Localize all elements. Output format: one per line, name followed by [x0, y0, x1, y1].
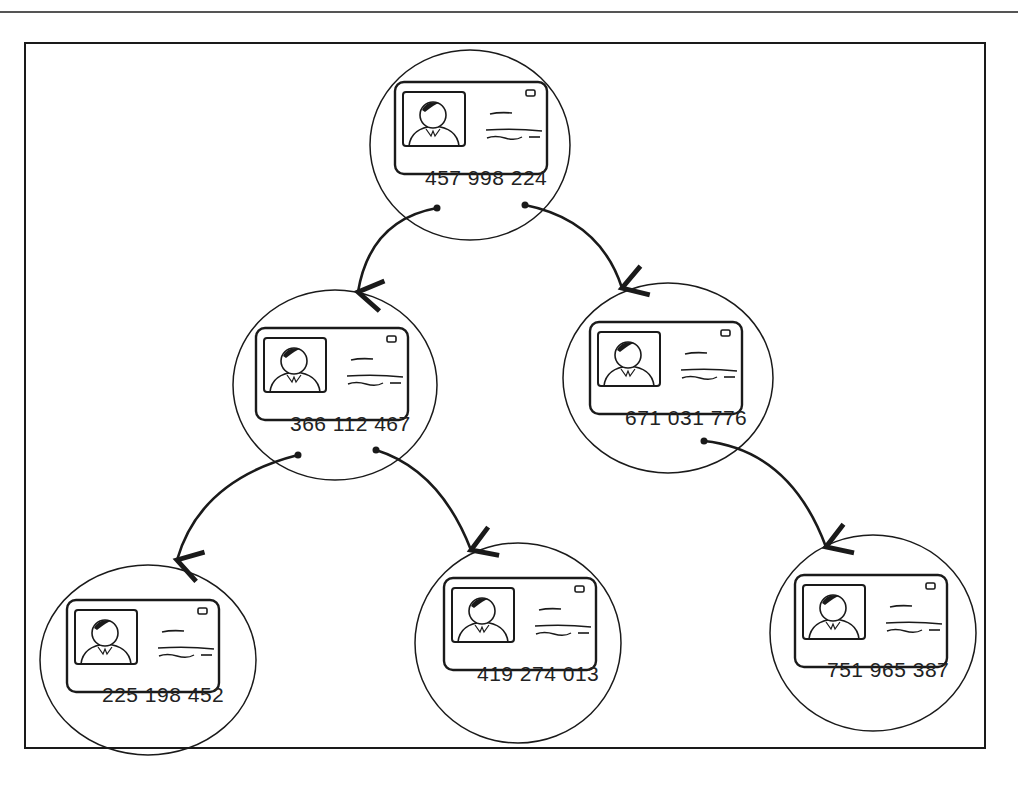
id-number-root: 457 998 224: [425, 166, 547, 189]
id-number-left-right: 419 274 013: [477, 662, 599, 685]
node-right: 671 031 776: [563, 283, 773, 473]
node-left: 366 112 467: [233, 290, 437, 480]
node-root: 457 998 224: [370, 50, 570, 240]
id-number-right: 671 031 776: [625, 406, 747, 429]
id-number-left: 366 112 467: [290, 412, 411, 435]
id-number-left-left: 225 198 452: [102, 683, 224, 706]
edge-left-leftright: [373, 447, 472, 551]
node-left-right: 419 274 013: [415, 543, 621, 743]
node-right-right: 751 965 387: [770, 535, 976, 731]
node-left-left: 225 198 452: [40, 565, 256, 755]
id-number-right-right: 751 965 387: [827, 658, 949, 681]
edge-left-leftleft: [177, 452, 302, 561]
tree-diagram: 457 998 224 366 112 467 671 031 776 225 …: [0, 0, 1018, 788]
edge-right-rightright: [701, 438, 827, 548]
edge-root-left: [358, 205, 441, 293]
edge-root-right: [522, 202, 623, 289]
